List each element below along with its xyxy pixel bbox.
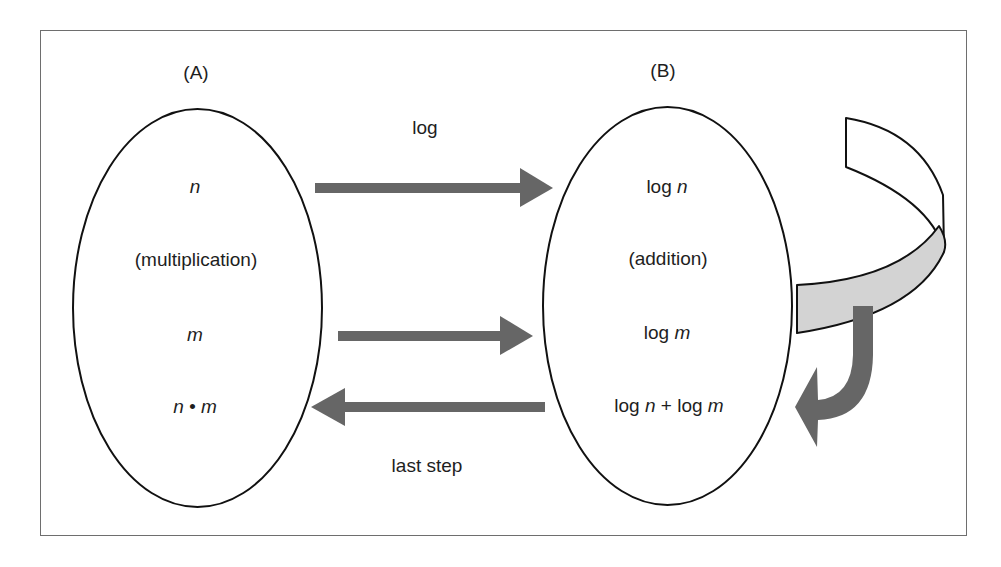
var-m: m bbox=[187, 324, 203, 345]
panel-b-item-log-n: log n bbox=[646, 177, 687, 196]
arrow-left-icon-bottom bbox=[311, 388, 545, 426]
ellipse-a bbox=[73, 109, 322, 507]
var-m: m bbox=[708, 395, 724, 416]
panel-b-item-operation: (addition) bbox=[628, 249, 707, 268]
panel-a-item-m: m bbox=[187, 325, 203, 344]
arrow-right-icon-middle bbox=[338, 316, 533, 355]
panel-a-item-n: n bbox=[190, 177, 201, 196]
diagram-canvas bbox=[0, 0, 1001, 567]
panel-a-title: (A) bbox=[183, 63, 208, 82]
panel-a-item-product: n • m bbox=[173, 397, 217, 416]
plus-log: + log bbox=[656, 395, 708, 416]
log-prefix: log bbox=[644, 322, 675, 343]
var-n: n bbox=[190, 176, 201, 197]
panel-b-item-sum: log n + log m bbox=[614, 396, 723, 415]
arrow-label-last-step: last step bbox=[392, 456, 463, 475]
panel-a-item-operation: (multiplication) bbox=[135, 250, 257, 269]
var-n: n bbox=[645, 395, 656, 416]
ribbon-back-icon bbox=[846, 118, 944, 250]
var-m: m bbox=[674, 322, 690, 343]
product-expression: n • m bbox=[173, 396, 217, 417]
log-prefix: log bbox=[614, 395, 645, 416]
panel-b-title: (B) bbox=[650, 61, 675, 80]
panel-b-item-log-m: log m bbox=[644, 323, 690, 342]
log-prefix: log bbox=[646, 176, 677, 197]
arrow-label-log: log bbox=[412, 118, 437, 137]
ellipse-b bbox=[543, 107, 792, 505]
var-n: n bbox=[677, 176, 688, 197]
arrow-right-icon-top bbox=[315, 168, 553, 207]
